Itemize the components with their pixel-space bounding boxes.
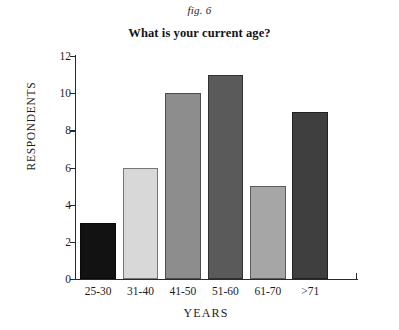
bar (250, 186, 286, 279)
y-tick-label: 2 (65, 236, 71, 248)
x-tick-label: 25-30 (80, 285, 116, 297)
figure-container: fig. 6 What is your current age? RESPOND… (0, 0, 399, 330)
y-tick-label: 8 (65, 124, 71, 136)
x-axis-label: YEARS (55, 306, 357, 321)
x-tick-label: 31-40 (123, 285, 159, 297)
bar (208, 75, 244, 279)
y-tick-label: 6 (65, 162, 71, 174)
y-tick-label: 12 (60, 50, 72, 62)
y-tick-label: 0 (65, 273, 71, 285)
x-axis-line (75, 279, 358, 280)
chart-title: What is your current age? (0, 26, 399, 41)
y-tick-label: 4 (65, 199, 71, 211)
y-axis-label: RESPONDENTS (25, 46, 37, 206)
bar (80, 223, 116, 279)
x-tick-label: 61-70 (250, 285, 286, 297)
bar (123, 168, 159, 280)
plot-area: 024681012 25-3031-4041-5051-6061-70>71 (76, 56, 357, 279)
figure-number-label: fig. 6 (0, 4, 399, 16)
x-tick-label: 51-60 (208, 285, 244, 297)
y-tick-label: 10 (60, 87, 72, 99)
x-tick-label: >71 (292, 285, 328, 297)
bar (292, 112, 328, 279)
x-axis-end-cap (356, 273, 357, 280)
bar (165, 93, 201, 279)
x-tick-label: 41-50 (165, 285, 201, 297)
